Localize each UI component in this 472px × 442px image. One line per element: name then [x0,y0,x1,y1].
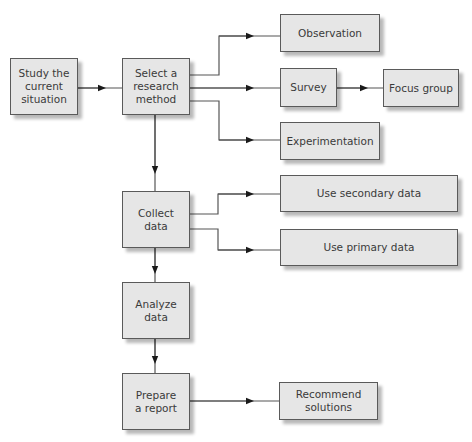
edge-select-to-experimentation [190,101,280,140]
edge-collect-to-primary [190,229,280,250]
research-process-flowchart: Study the current situation Select a res… [0,0,472,442]
node-survey: Survey [280,68,337,107]
node-observation: Observation [280,14,380,52]
node-recommend-solutions: Recommend solutions [279,382,378,420]
node-focus-group: Focus group [383,69,459,107]
edge-select-to-observation [190,36,280,75]
node-prepare-report: Prepare a report [122,373,190,430]
node-collect-data: Collect data [122,191,190,248]
node-experimentation: Experimentation [280,122,380,160]
node-study-current-situation: Study the current situation [10,58,78,115]
node-analyze-data: Analyze data [122,282,190,339]
node-use-secondary-data: Use secondary data [280,175,458,212]
edge-collect-to-secondary [190,194,280,214]
node-use-primary-data: Use primary data [280,229,458,266]
node-select-research-method: Select a research method [122,58,190,115]
